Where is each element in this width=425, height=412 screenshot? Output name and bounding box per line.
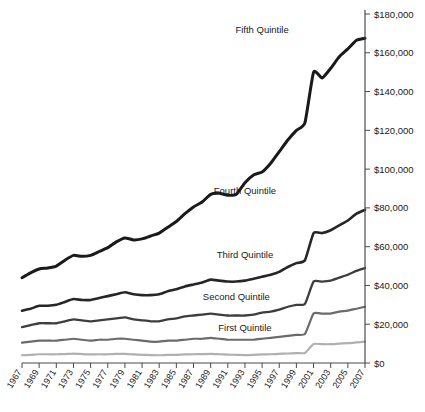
y-tick-label: $80,000	[374, 202, 408, 213]
series-line-second-quintile	[22, 307, 365, 343]
x-tick-label: 1987	[176, 368, 195, 390]
x-tick-label: 2005	[330, 368, 349, 390]
x-tick-label: 1971	[39, 368, 58, 390]
income-quintile-chart: $0$20,000$40,000$60,000$80,000$100,000$1…	[0, 0, 425, 412]
y-tick-label: $160,000	[374, 47, 414, 58]
x-tick-label: 2001	[296, 368, 315, 390]
x-tick-label: 1983	[142, 368, 161, 390]
x-tick-label: 1997	[262, 368, 281, 390]
series-labels: Fifth QuintileFourth QuintileThird Quint…	[203, 24, 289, 333]
y-tick-label: $0	[374, 358, 385, 369]
series-label-second-quintile: Second Quintile	[203, 291, 270, 302]
x-tick-label: 1977	[90, 368, 109, 390]
series-label-third-quintile: Third Quintile	[217, 249, 274, 260]
y-tick-label: $40,000	[374, 280, 408, 291]
x-tick-label: 1995	[245, 368, 264, 390]
x-axis: 1967196919711973197519771979198119831985…	[5, 363, 367, 390]
series-line-third-quintile	[22, 268, 365, 327]
x-tick-label: 2007	[348, 368, 367, 390]
x-tick-label: 1999	[279, 368, 298, 390]
x-tick-label: 1985	[159, 368, 178, 390]
x-tick-label: 1979	[108, 368, 127, 390]
x-tick-label: 1975	[73, 368, 92, 390]
y-axis: $0$20,000$40,000$60,000$80,000$100,000$1…	[365, 9, 414, 369]
y-tick-label: $60,000	[374, 241, 408, 252]
x-tick-label: 1973	[56, 368, 75, 390]
series-label-first-quintile: First Quintile	[218, 322, 271, 333]
x-tick-label: 1993	[228, 368, 247, 390]
chart-canvas: $0$20,000$40,000$60,000$80,000$100,000$1…	[0, 0, 425, 412]
y-tick-label: $120,000	[374, 125, 414, 136]
x-tick-label: 2003	[313, 368, 332, 390]
y-tick-label: $140,000	[374, 86, 414, 97]
series-group	[22, 38, 365, 355]
series-line-fourth-quintile	[22, 210, 365, 311]
series-line-fifth-quintile	[22, 38, 365, 277]
series-line-first-quintile	[22, 342, 365, 356]
x-tick-label: 1981	[125, 368, 144, 390]
y-tick-label: $20,000	[374, 319, 408, 330]
y-tick-label: $180,000	[374, 9, 414, 20]
x-tick-label: 1989	[193, 368, 212, 390]
y-tick-label: $100,000	[374, 164, 414, 175]
x-tick-label: 1967	[5, 368, 24, 390]
x-tick-label: 1991	[210, 368, 229, 390]
series-label-fifth-quintile: Fifth Quintile	[235, 24, 288, 35]
x-tick-label: 1969	[22, 368, 41, 390]
series-label-fourth-quintile: Fourth Quintile	[214, 185, 276, 196]
